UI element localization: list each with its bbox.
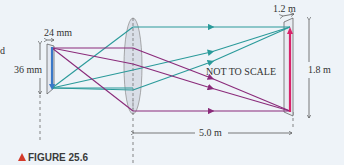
screen-width-dim: [283, 14, 294, 16]
film-width-label: 24 mm: [44, 27, 72, 38]
distance-label: 5.0 m: [199, 127, 222, 138]
left-fragment-text: d: [0, 45, 5, 56]
projector-diagram: d 24 mm: [0, 0, 344, 165]
screen-height-label: 1.8 m: [308, 64, 331, 75]
purple-rays: [52, 48, 290, 111]
caption-triangle-icon: [18, 153, 26, 161]
teal-rays: [52, 27, 290, 90]
figure-caption: FIGURE 25.6: [28, 152, 88, 163]
screen-width-label: 1.2 m: [273, 3, 296, 14]
film-height-label: 36 mm: [14, 64, 42, 75]
not-to-scale-note: NOT TO SCALE: [206, 66, 276, 77]
